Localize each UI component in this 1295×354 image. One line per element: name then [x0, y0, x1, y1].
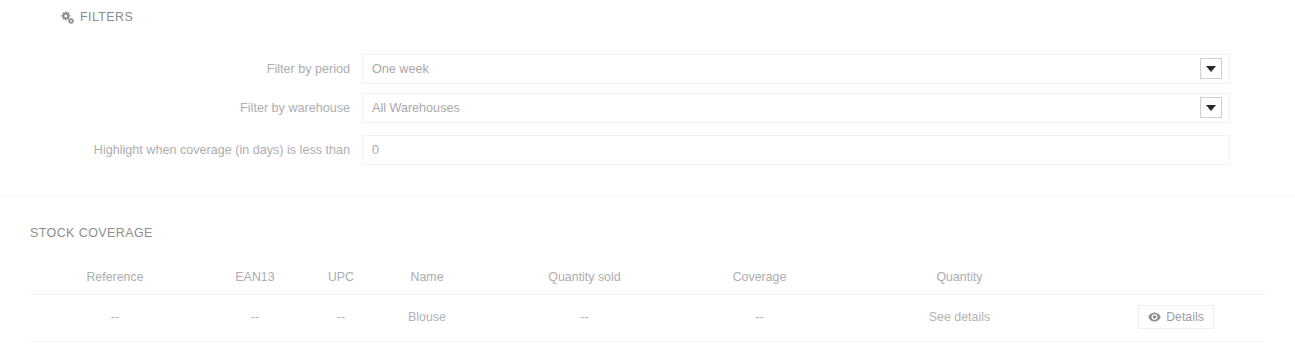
eye-icon — [1148, 312, 1161, 322]
details-button-label: Details — [1166, 310, 1204, 324]
highlight-coverage-label: Highlight when coverage (in days) is les… — [0, 143, 362, 157]
filter-warehouse-value: All Warehouses — [372, 101, 460, 115]
column-header-actions — [1087, 266, 1265, 295]
stock-coverage-title: STOCK COVERAGE — [30, 226, 153, 240]
table-header-row: Reference EAN13 UPC Name Quantity sold C… — [30, 266, 1265, 295]
column-header-coverage[interactable]: Coverage — [687, 266, 832, 295]
filter-row-highlight-coverage: Highlight when coverage (in days) is les… — [0, 131, 1295, 169]
filter-row-period: Filter by period One week — [0, 50, 1295, 88]
filters-panel: FILTERS Filter by period One week Filter… — [0, 0, 1295, 196]
cogs-icon — [60, 11, 74, 24]
cell-actions: Details — [1087, 295, 1265, 342]
cell-reference: -- — [30, 295, 200, 342]
highlight-coverage-input[interactable]: 0 — [362, 135, 1230, 165]
column-header-quantity-sold[interactable]: Quantity sold — [482, 266, 687, 295]
filters-panel-header: FILTERS — [60, 10, 133, 24]
chevron-down-icon — [1206, 66, 1216, 72]
column-header-reference[interactable]: Reference — [30, 266, 200, 295]
highlight-coverage-value: 0 — [372, 143, 379, 157]
filters-panel-title: FILTERS — [80, 10, 133, 24]
chevron-down-icon — [1206, 105, 1216, 111]
highlight-coverage-control-wrap: 0 — [362, 135, 1230, 165]
filter-period-dropdown-button[interactable] — [1200, 58, 1222, 79]
stock-coverage-panel: STOCK COVERAGE Reference EAN13 UPC Name … — [0, 196, 1295, 354]
table-body: -- -- -- Blouse -- -- See details — [30, 295, 1265, 342]
cell-name: Blouse — [372, 295, 482, 342]
filter-warehouse-dropdown-button[interactable] — [1200, 97, 1222, 118]
details-button[interactable]: Details — [1138, 305, 1214, 329]
cell-ean13: -- — [200, 295, 310, 342]
cell-quantity: See details — [832, 295, 1087, 342]
filter-period-control-wrap: One week — [362, 54, 1230, 84]
column-header-quantity[interactable]: Quantity — [832, 266, 1087, 295]
filter-warehouse-select[interactable]: All Warehouses — [362, 93, 1230, 123]
filter-row-warehouse: Filter by warehouse All Warehouses — [0, 89, 1295, 127]
filter-period-value: One week — [372, 62, 429, 76]
filter-period-select[interactable]: One week — [362, 54, 1230, 84]
cell-quantity-sold: -- — [482, 295, 687, 342]
cell-coverage: -- — [687, 295, 832, 342]
column-header-ean13[interactable]: EAN13 — [200, 266, 310, 295]
stock-coverage-table: Reference EAN13 UPC Name Quantity sold C… — [30, 266, 1265, 342]
table-row[interactable]: -- -- -- Blouse -- -- See details — [30, 295, 1265, 342]
table-head: Reference EAN13 UPC Name Quantity sold C… — [30, 266, 1265, 295]
stock-coverage-page: FILTERS Filter by period One week Filter… — [0, 0, 1295, 354]
filter-warehouse-control-wrap: All Warehouses — [362, 93, 1230, 123]
filter-period-label: Filter by period — [0, 62, 362, 76]
filter-warehouse-label: Filter by warehouse — [0, 101, 362, 115]
column-header-name[interactable]: Name — [372, 266, 482, 295]
column-header-upc[interactable]: UPC — [310, 266, 372, 295]
cell-upc: -- — [310, 295, 372, 342]
